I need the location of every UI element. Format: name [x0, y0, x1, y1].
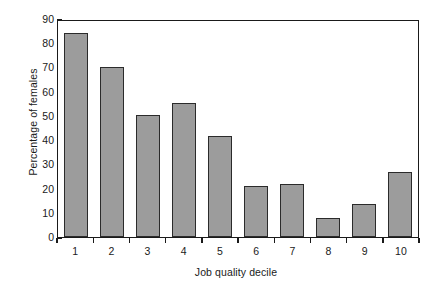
x-tick-mark: [201, 238, 202, 243]
x-axis-title: Job quality decile: [52, 266, 420, 278]
bar-decile-1: [64, 33, 88, 237]
y-tick-label: 80: [42, 37, 54, 49]
x-tick-label: 2: [91, 245, 131, 257]
x-tick-mark: [310, 238, 311, 243]
bar-decile-10: [388, 172, 412, 237]
x-tick-mark: [56, 238, 57, 243]
x-tick-mark: [165, 238, 166, 243]
x-tick-label: 9: [345, 245, 385, 257]
x-tick-mark: [93, 238, 94, 243]
bar-decile-6: [244, 186, 268, 237]
y-tick-label: 40: [42, 134, 54, 146]
bar-decile-4: [172, 103, 196, 237]
y-tick-label: 0: [48, 231, 54, 243]
bar-slot: [346, 21, 382, 237]
bar-slot: [202, 21, 238, 237]
bar-decile-9: [352, 204, 376, 237]
y-tick-label: 30: [42, 158, 54, 170]
x-tick-mark: [274, 238, 275, 243]
bar-decile-2: [100, 67, 124, 237]
x-tick-label: 5: [200, 245, 240, 257]
bar-slot: [382, 21, 418, 237]
y-axis-title: Percentage of females: [24, 2, 42, 242]
x-tick-label: 1: [55, 245, 95, 257]
bar-slot: [94, 21, 130, 237]
x-tick-mark: [418, 238, 419, 243]
y-tick-label: 90: [42, 13, 54, 25]
bar-slot: [166, 21, 202, 237]
bar-slot: [58, 21, 94, 237]
y-tick-label: 70: [42, 61, 54, 73]
x-tick-mark: [346, 238, 347, 243]
bar-slot: [310, 21, 346, 237]
bar-slot: [238, 21, 274, 237]
bars-container: [58, 21, 418, 237]
x-tick-label: 10: [381, 245, 421, 257]
y-tick-label: 20: [42, 183, 54, 195]
x-tick-mark: [129, 238, 130, 243]
x-tick-label: 3: [128, 245, 168, 257]
bar-chart-figure: Percentage of females 010203040506070809…: [0, 0, 444, 291]
bar-decile-7: [280, 184, 304, 237]
y-tick-label: 60: [42, 86, 54, 98]
y-tick-label: 10: [42, 207, 54, 219]
bar-decile-5: [208, 136, 232, 237]
x-tick-label: 8: [309, 245, 349, 257]
x-tick-label: 7: [272, 245, 312, 257]
x-tick-label: 6: [236, 245, 276, 257]
x-tick-mark: [237, 238, 238, 243]
x-tick-label: 4: [164, 245, 204, 257]
bar-decile-8: [316, 218, 340, 237]
y-tick-label: 50: [42, 110, 54, 122]
plot-area: [57, 20, 419, 238]
bar-slot: [274, 21, 310, 237]
x-tick-mark: [382, 238, 383, 243]
bar-decile-3: [136, 115, 160, 237]
bar-slot: [130, 21, 166, 237]
